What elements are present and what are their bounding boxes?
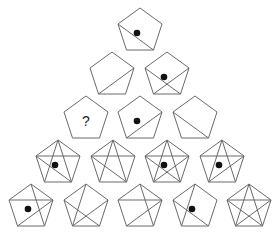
- dot-marker: [134, 118, 141, 125]
- pentagon-r5-c2: [64, 184, 108, 226]
- diagonal-line: [140, 184, 154, 226]
- diagonal-line: [73, 184, 87, 226]
- pentagon-r4-c2: [91, 140, 135, 182]
- diagonal-line: [45, 140, 59, 182]
- diagonal-line: [99, 68, 135, 94]
- diagonal-line: [249, 184, 263, 226]
- dot-marker: [189, 206, 196, 213]
- diagonal-line: [154, 140, 168, 182]
- pentagon-r4-c3: [145, 140, 189, 182]
- diagonal-line: [182, 184, 196, 226]
- diagonal-line: [91, 156, 127, 182]
- diagonal-line: [145, 156, 181, 182]
- diagonal-line: [64, 200, 100, 226]
- pentagon-r4-c1: [36, 140, 80, 182]
- dot-marker: [161, 74, 168, 81]
- diagonal-line: [227, 200, 263, 226]
- diagonal-line: [113, 140, 127, 182]
- pentagon-r2-c1: [90, 52, 134, 94]
- dot-marker: [216, 162, 223, 169]
- pentagon-r4-c4: [200, 140, 244, 182]
- pentagon-r3-c1: ?: [64, 96, 108, 138]
- question-mark-label: ?: [82, 113, 90, 129]
- dot-marker: [52, 162, 59, 169]
- diagonal-line: [209, 156, 245, 182]
- diagonal-line: [36, 156, 72, 182]
- diagonal-line: [73, 200, 109, 226]
- pentagon-r5-c1: [9, 184, 53, 226]
- diagonal-line: [167, 140, 181, 182]
- puzzle-canvas: ?: [0, 0, 279, 238]
- diagonal-line: [154, 156, 190, 182]
- dot-marker: [161, 162, 168, 169]
- diagonal-line: [58, 140, 72, 182]
- diagonal-line: [173, 112, 209, 138]
- pentagon-r1-c1: [118, 8, 162, 50]
- diagonal-line: [100, 140, 114, 182]
- diagonal-line: [236, 200, 272, 226]
- pentagon-r3-c3: [173, 96, 217, 138]
- dot-marker: [134, 30, 141, 37]
- pentagon-r2-c2: [145, 52, 189, 94]
- pentagon-r5-c3: [118, 184, 162, 226]
- dot-marker: [25, 206, 32, 213]
- diagonal-line: [236, 184, 250, 226]
- diagonal-line: [145, 68, 181, 94]
- diagonal-line: [154, 68, 190, 94]
- pentagon-pyramid-puzzle: ? Pentagon pyramid pattern: [0, 0, 279, 238]
- diagonal-line: [209, 140, 223, 182]
- pentagon-r5-c5: [227, 184, 271, 226]
- diagonal-line: [173, 200, 209, 226]
- diagonal-line: [31, 184, 45, 226]
- diagonal-line: [127, 200, 163, 226]
- pentagon-r3-c2: [118, 96, 162, 138]
- diagonal-line: [127, 112, 163, 138]
- pentagon-r5-c4: [173, 184, 217, 226]
- diagonal-line: [118, 24, 154, 50]
- diagonal-line: [222, 140, 236, 182]
- diagonal-line: [18, 200, 54, 226]
